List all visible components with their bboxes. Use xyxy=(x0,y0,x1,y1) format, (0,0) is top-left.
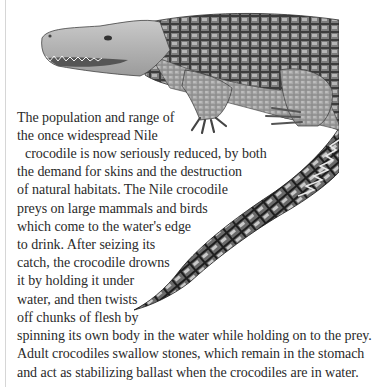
text-line: catch, the crocodile drowns xyxy=(17,254,170,272)
text-line: which come to the water's edge xyxy=(17,218,191,236)
text-line: Adult crocodiles swallow stones, which r… xyxy=(17,345,364,363)
text-line: crocodile is now seriously reduced, by b… xyxy=(25,145,267,163)
text-line: spinning its own body in the water while… xyxy=(17,327,372,345)
text-line: water, and then twists xyxy=(17,291,137,309)
text-line: the once widespread Nile xyxy=(17,127,158,145)
text-line: preys on large mammals and birds xyxy=(17,200,208,218)
text-line: to drink. After seizing its xyxy=(17,236,155,254)
text-line: off chunks of flesh by xyxy=(17,309,139,327)
text-line: of natural habitats. The Nile crocodile xyxy=(17,181,228,199)
text-line: the demand for skins and the destruction xyxy=(17,163,242,181)
text-line: and act as stabilizing ballast when the … xyxy=(17,364,359,382)
text-line: it by holding it under xyxy=(17,272,134,290)
text-line: The population and range of xyxy=(17,109,174,127)
